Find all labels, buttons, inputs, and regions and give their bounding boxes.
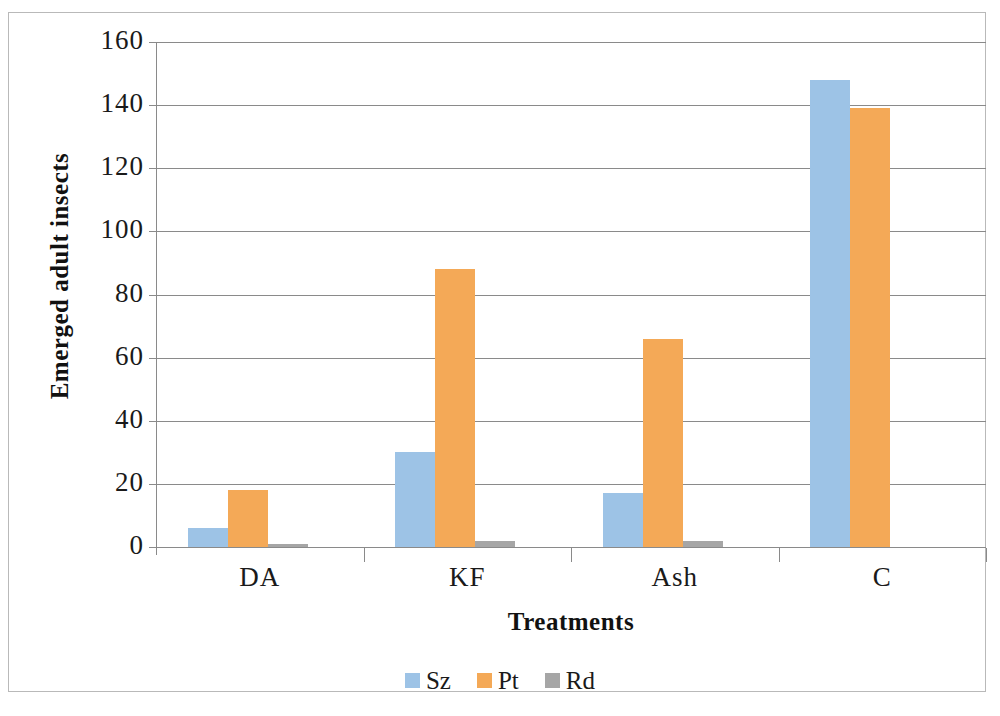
bar-ash-sz xyxy=(603,493,643,547)
y-tick-label: 160 xyxy=(101,27,145,54)
x-axis-separator xyxy=(571,548,572,562)
y-tick-mark xyxy=(149,42,156,43)
x-category-label-da: DA xyxy=(156,562,364,593)
bar-ash-pt xyxy=(643,339,683,547)
legend-label: Rd xyxy=(566,668,595,693)
chart-figure: 160140120100806040200 Emerged adult inse… xyxy=(0,0,1000,716)
y-tick-label: 20 xyxy=(115,469,144,496)
chart-legend: SzPtRd xyxy=(0,668,1000,693)
bar-c-sz xyxy=(810,80,850,547)
legend-swatch-icon xyxy=(477,673,492,688)
bar-kf-sz xyxy=(395,452,435,547)
bar-c-pt xyxy=(850,108,890,547)
legend-item-rd: Rd xyxy=(545,668,595,693)
legend-swatch-icon xyxy=(405,673,420,688)
legend-item-pt: Pt xyxy=(477,668,519,693)
x-axis-separator xyxy=(779,548,780,562)
y-tick-mark xyxy=(149,105,156,106)
y-axis-title: Emerged adult insects xyxy=(46,86,74,466)
y-tick-mark xyxy=(149,421,156,422)
x-category-label-ash: Ash xyxy=(571,562,779,593)
y-tick-mark xyxy=(149,358,156,359)
y-tick-label: 100 xyxy=(101,216,145,243)
y-tick-mark xyxy=(149,231,156,232)
y-tick-label: 40 xyxy=(115,406,144,433)
y-tick-label: 120 xyxy=(101,153,145,180)
plot-area xyxy=(156,42,986,547)
x-axis-separator xyxy=(364,548,365,562)
y-tick-mark xyxy=(149,168,156,169)
bar-da-sz xyxy=(188,528,228,547)
x-axis-title: Treatments xyxy=(156,608,986,636)
y-tick-label: 140 xyxy=(101,90,145,117)
y-tick-label: 60 xyxy=(115,343,144,370)
y-tick-mark xyxy=(149,547,156,548)
y-tick-mark xyxy=(149,295,156,296)
legend-label: Pt xyxy=(498,668,519,693)
x-category-label-c: C xyxy=(779,562,987,593)
x-axis-separator xyxy=(986,548,987,562)
y-tick-label: 80 xyxy=(115,280,144,307)
bar-da-pt xyxy=(228,490,268,547)
y-tick-label: 0 xyxy=(130,532,145,559)
bar-kf-pt xyxy=(435,269,475,547)
y-tick-mark xyxy=(149,484,156,485)
legend-item-sz: Sz xyxy=(405,668,451,693)
legend-label: Sz xyxy=(426,668,451,693)
x-category-label-kf: KF xyxy=(364,562,572,593)
legend-swatch-icon xyxy=(545,673,560,688)
